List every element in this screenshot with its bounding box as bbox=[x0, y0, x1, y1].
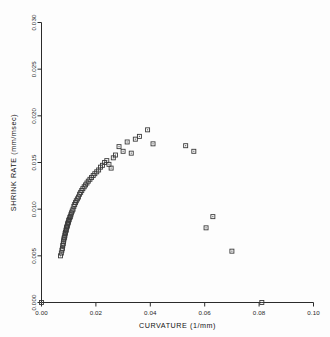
x-tick-label: 0.10 bbox=[307, 309, 320, 316]
plot-canvas: 0.000.020.040.060.080.100.0000.0050.0100… bbox=[0, 0, 330, 337]
y-tick-label: 0.030 bbox=[30, 14, 37, 30]
data-point-center bbox=[108, 164, 109, 165]
data-point-center bbox=[115, 154, 116, 155]
data-point-center bbox=[131, 153, 132, 154]
data-point-center bbox=[123, 151, 124, 152]
y-tick-label: 0.025 bbox=[30, 61, 37, 77]
y-tick-label: 0.015 bbox=[30, 154, 37, 170]
scatter-plot-figure: 0.000.020.040.060.080.100.0000.0050.0100… bbox=[0, 0, 330, 337]
x-tick-label: 0.08 bbox=[253, 309, 266, 316]
x-tick-label: 0.06 bbox=[198, 309, 211, 316]
data-point-center bbox=[106, 160, 107, 161]
x-tick-label: 0.00 bbox=[35, 309, 48, 316]
data-point-center bbox=[135, 139, 136, 140]
data-series bbox=[40, 128, 264, 305]
data-point-center bbox=[212, 216, 213, 217]
data-point-center bbox=[127, 141, 128, 142]
x-axis-title: CURVATURE (1/mm) bbox=[139, 321, 216, 330]
y-tick-label: 0.000 bbox=[30, 294, 37, 310]
y-tick-label: 0.020 bbox=[30, 107, 37, 123]
data-point-center bbox=[41, 302, 42, 303]
data-point-center bbox=[118, 146, 119, 147]
y-tick-label: 0.005 bbox=[30, 247, 37, 263]
data-point-center bbox=[139, 136, 140, 137]
data-point-center bbox=[231, 251, 232, 252]
data-point-center bbox=[261, 302, 262, 303]
y-tick-label: 0.010 bbox=[30, 201, 37, 217]
data-point-center bbox=[206, 227, 207, 228]
y-axis-title: SHRINK RATE (mm/msec) bbox=[9, 114, 18, 211]
x-tick-label: 0.02 bbox=[90, 309, 103, 316]
data-point-center bbox=[147, 129, 148, 130]
data-point-center bbox=[193, 151, 194, 152]
data-point-center bbox=[152, 143, 153, 144]
data-point-center bbox=[111, 168, 112, 169]
x-tick-label: 0.04 bbox=[144, 309, 157, 316]
data-point-center bbox=[185, 145, 186, 146]
